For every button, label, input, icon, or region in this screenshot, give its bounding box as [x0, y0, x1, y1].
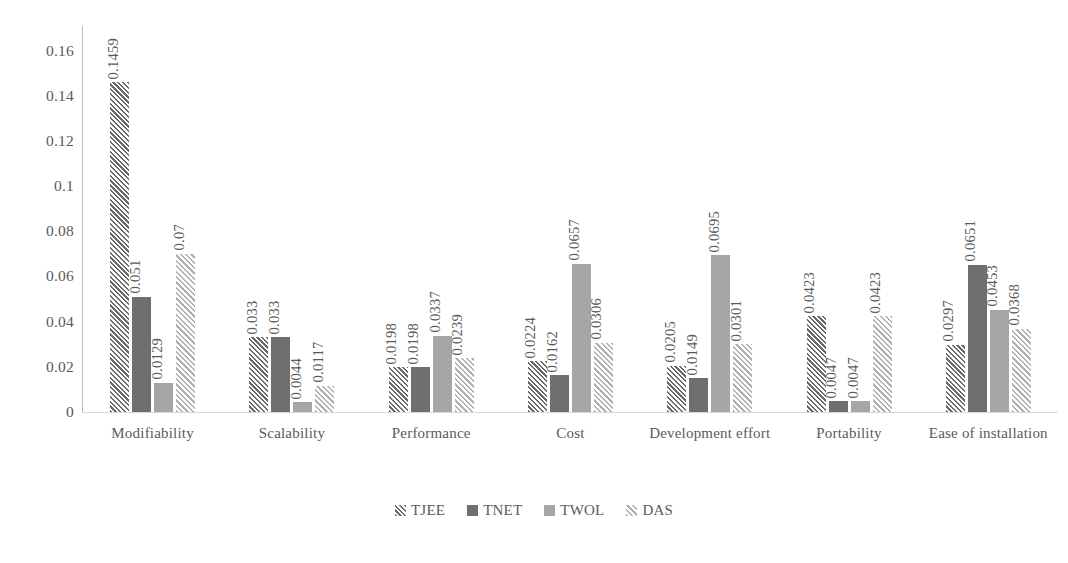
category-label: Portability — [779, 424, 918, 443]
legend-swatch-icon — [544, 505, 555, 516]
bar-tjee[interactable]: 0.0297 — [946, 345, 965, 412]
bar-group: 0.01980.01980.03370.0239 — [362, 28, 501, 412]
legend-swatch-icon — [467, 505, 478, 516]
bar-cluster: 0.01980.01980.03370.0239 — [389, 28, 474, 412]
legend-label: TWOL — [560, 503, 604, 518]
bar-value-label: 0.0423 — [802, 272, 817, 314]
bar-slot: 0.0301 — [733, 28, 752, 412]
bar-slot: 0.0306 — [594, 28, 613, 412]
bar-value-label: 0.0047 — [846, 357, 861, 399]
bar-slot: 0.0117 — [315, 28, 334, 412]
bar-slot: 0.0657 — [572, 28, 591, 412]
y-axis-tick: 0.12 — [0, 133, 74, 149]
bar-slot: 0.0129 — [154, 28, 173, 412]
bar-tnet[interactable]: 0.0198 — [411, 367, 430, 412]
category-label: Scalability — [222, 424, 361, 443]
bar-value-label: 0.0297 — [941, 300, 956, 342]
bar-slot: 0.0423 — [873, 28, 892, 412]
bar-value-label: 0.0368 — [1007, 284, 1022, 326]
bar-value-label: 0.0044 — [288, 357, 303, 399]
bar-slot: 0.0695 — [711, 28, 730, 412]
bar-das[interactable]: 0.0117 — [315, 386, 334, 412]
bar-value-label: 0.0117 — [310, 341, 325, 382]
bar-value-label: 0.0239 — [450, 313, 465, 355]
bar-value-label: 0.0423 — [868, 272, 883, 314]
bar-cluster: 0.02970.06510.04530.0368 — [946, 28, 1031, 412]
bar-group: 0.02050.01490.06950.0301 — [640, 28, 779, 412]
y-axis-tick: 0.16 — [0, 43, 74, 59]
bar-value-label: 0.0301 — [728, 299, 743, 341]
legend-label: TJEE — [411, 503, 445, 518]
bar-das[interactable]: 0.0368 — [1012, 329, 1031, 412]
bar-tjee[interactable]: 0.1459 — [110, 82, 129, 412]
y-axis-tick: 0 — [0, 404, 74, 420]
bar-value-label: 0.033 — [244, 300, 259, 334]
bar-tnet[interactable]: 0.0149 — [689, 378, 708, 412]
bar-das[interactable]: 0.0301 — [733, 344, 752, 412]
bar-slot: 0.033 — [271, 28, 290, 412]
category-label: Ease of installation — [919, 424, 1058, 443]
bar-group: 0.04230.00470.00470.0423 — [779, 28, 918, 412]
bar-das[interactable]: 0.0306 — [594, 343, 613, 412]
bar-value-label: 0.033 — [266, 300, 281, 334]
bar-value-label: 0.0695 — [706, 210, 721, 252]
bar-value-label: 0.07 — [171, 224, 186, 251]
legend-item-tjee[interactable]: TJEE — [395, 503, 445, 518]
bar-tjee[interactable]: 0.033 — [249, 337, 268, 412]
bar-value-label: 0.0453 — [985, 265, 1000, 307]
y-axis-tick: 0.14 — [0, 88, 74, 104]
category-label: Cost — [501, 424, 640, 443]
legend-item-das[interactable]: DAS — [626, 503, 673, 518]
bar-value-label: 0.0149 — [684, 334, 699, 376]
category-label: Performance — [362, 424, 501, 443]
y-axis-tick: 0.1 — [0, 178, 74, 194]
bar-slot: 0.1459 — [110, 28, 129, 412]
bar-value-label: 0.0224 — [523, 317, 538, 359]
bar-group: 0.02970.06510.04530.0368 — [919, 28, 1058, 412]
y-axis-tick: 0.04 — [0, 314, 74, 330]
bar-slot: 0.0368 — [1012, 28, 1031, 412]
bar-group: 0.02240.01620.06570.0306 — [501, 28, 640, 412]
bar-das[interactable]: 0.0423 — [873, 316, 892, 412]
category-label: Modifiability — [83, 424, 222, 443]
bar-tjee[interactable]: 0.0198 — [389, 367, 408, 412]
bar-cluster: 0.02050.01490.06950.0301 — [667, 28, 752, 412]
bar-value-label: 0.051 — [127, 260, 142, 294]
bar-das[interactable]: 0.07 — [176, 254, 195, 412]
chart-legend: TJEETNETTWOLDAS — [0, 503, 1068, 518]
bar-slot: 0.033 — [249, 28, 268, 412]
bar-twol[interactable]: 0.0129 — [154, 383, 173, 412]
bar-tnet[interactable]: 0.0162 — [550, 375, 569, 412]
category-label: Development effort — [640, 424, 779, 443]
bar-slot: 0.07 — [176, 28, 195, 412]
bar-slot: 0.0047 — [829, 28, 848, 412]
bar-value-label: 0.0205 — [662, 321, 677, 363]
bar-value-label: 0.0047 — [824, 357, 839, 399]
bar-value-label: 0.0306 — [589, 298, 604, 340]
bar-slot: 0.0423 — [807, 28, 826, 412]
bar-value-label: 0.0651 — [963, 220, 978, 262]
x-axis-line — [82, 412, 1058, 413]
bar-slot: 0.0198 — [411, 28, 430, 412]
bar-slot: 0.0239 — [455, 28, 474, 412]
bar-value-label: 0.0337 — [428, 291, 443, 333]
bar-value-label: 0.0198 — [406, 323, 421, 365]
y-axis-tick: 0.06 — [0, 269, 74, 285]
legend-item-tnet[interactable]: TNET — [467, 503, 522, 518]
bar-tnet[interactable]: 0.0047 — [829, 401, 848, 412]
bar-groups: 0.14590.0510.01290.070.0330.0330.00440.0… — [83, 28, 1058, 412]
bar-twol[interactable]: 0.0047 — [851, 401, 870, 412]
y-axis-tick-labels: 00.020.040.060.080.10.120.140.16 — [0, 0, 74, 563]
legend-swatch-icon — [395, 505, 406, 516]
bar-twol[interactable]: 0.0044 — [293, 402, 312, 412]
bar-cluster: 0.0330.0330.00440.0117 — [249, 28, 334, 412]
bar-cluster: 0.14590.0510.01290.07 — [110, 28, 195, 412]
bar-slot: 0.0453 — [990, 28, 1009, 412]
bar-group: 0.14590.0510.01290.07 — [83, 28, 222, 412]
bar-das[interactable]: 0.0239 — [455, 358, 474, 412]
bar-cluster: 0.04230.00470.00470.0423 — [807, 28, 892, 412]
bar-group: 0.0330.0330.00440.0117 — [222, 28, 361, 412]
y-axis-tick: 0.08 — [0, 224, 74, 240]
legend-label: TNET — [483, 503, 522, 518]
legend-item-twol[interactable]: TWOL — [544, 503, 604, 518]
